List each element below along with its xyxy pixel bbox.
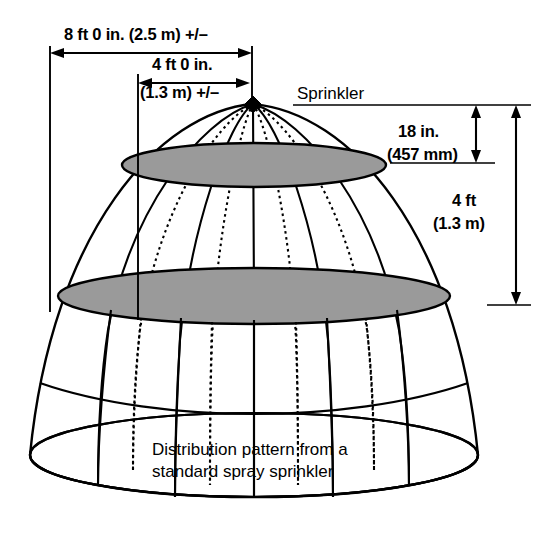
arrowhead-upper-bottom (471, 150, 481, 163)
arrowhead-total-top (511, 105, 521, 118)
arrowhead-outer-left (50, 48, 64, 58)
caption-line1: Distribution pattern from a (152, 440, 348, 459)
sprinkler-label: Sprinkler (297, 84, 364, 103)
arrowhead-upper-top (471, 105, 481, 118)
lower-shaded-band (58, 268, 450, 324)
inner-span-label-line2: (1.3 m) +/– (140, 83, 219, 101)
total-height-label-line2: (1.3 m) (433, 214, 485, 232)
caption-line2: standard spray sprinkler (152, 462, 334, 481)
upper-shaded-band (122, 143, 386, 187)
arrowhead-total-bottom (511, 292, 521, 305)
inner-span-label-line1: 4 ft 0 in. (152, 55, 212, 73)
sprinkler-distribution-diagram: 8 ft 0 in. (2.5 m) +/– 4 ft 0 in. (1.3 m… (0, 0, 554, 536)
outer-span-label: 8 ft 0 in. (2.5 m) +/– (64, 25, 208, 43)
arrowhead-outer-right (238, 48, 252, 58)
upper-height-label-line1: 18 in. (398, 122, 439, 140)
total-height-label-line1: 4 ft (452, 191, 477, 209)
diagram-canvas: 8 ft 0 in. (2.5 m) +/– 4 ft 0 in. (1.3 m… (0, 0, 554, 536)
arrowhead-inner-right (236, 78, 250, 88)
upper-height-label-line2: (457 mm) (387, 145, 458, 163)
